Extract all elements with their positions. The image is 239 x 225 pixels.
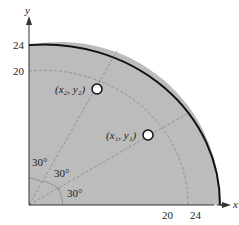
x-axis-label: x <box>232 198 238 210</box>
angle-label-2: 30° <box>54 167 69 179</box>
shaded-region <box>29 42 220 205</box>
y-axis-label: y <box>24 4 30 16</box>
point-2-label: (x₂, y₂) <box>55 83 86 96</box>
quarter-circle-diagram: y x 24 20 20 24 30° 30° 30° (x₂, y₂) (x₁… <box>0 0 239 225</box>
point-1-label: (x₁, y₁) <box>106 129 137 142</box>
y-tick-20: 20 <box>13 65 25 77</box>
point-1 <box>143 130 153 140</box>
y-tick-24: 24 <box>13 39 25 51</box>
point-2 <box>92 84 102 94</box>
angle-label-1: 30° <box>32 156 47 168</box>
x-tick-24: 24 <box>190 209 202 221</box>
angle-label-3: 30° <box>67 187 82 199</box>
x-axis-arrow-icon <box>222 202 231 208</box>
y-axis-arrow-icon <box>26 16 32 25</box>
x-tick-20: 20 <box>162 209 174 221</box>
